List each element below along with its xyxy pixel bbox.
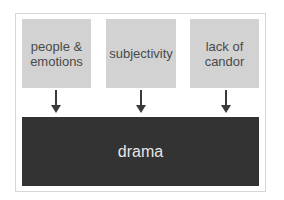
cause-label-line1: people & — [30, 39, 83, 54]
cause-box-people-emotions: people & emotions — [22, 19, 91, 88]
down-arrow-icon — [51, 90, 61, 114]
down-arrow-icon — [136, 90, 146, 114]
cause-box-subjectivity: subjectivity — [106, 19, 176, 88]
effect-label: drama — [118, 143, 163, 161]
cause-label-line2: candor — [205, 54, 245, 69]
cause-box-lack-of-candor: lack of candor — [190, 19, 259, 88]
cause-label-line1: subjectivity — [109, 46, 173, 61]
effect-box-drama: drama — [22, 117, 259, 186]
down-arrow-icon — [221, 90, 231, 114]
cause-label-line2: emotions — [30, 54, 83, 69]
cause-label-line1: lack of — [205, 39, 245, 54]
